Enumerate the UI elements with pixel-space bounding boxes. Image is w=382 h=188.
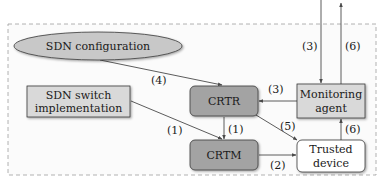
node-monitoring-agent: Monitoring agent — [297, 84, 365, 118]
node-sdn-configuration: SDN configuration — [14, 32, 182, 60]
node-crtm-label: CRTM — [206, 149, 241, 162]
edge-label-crtr-crtm: (1) — [228, 123, 244, 136]
edge-label-external-3: (3) — [302, 40, 318, 53]
node-sdn-configuration-label: SDN configuration — [46, 40, 150, 53]
edge-label-config-crtr: (4) — [151, 74, 167, 87]
node-sdn-switch-line2: implementation — [35, 102, 123, 115]
node-crtm: CRTM — [190, 140, 258, 170]
edge-label-monitoring-crtr: (3) — [268, 83, 284, 96]
node-monitoring-line1: Monitoring — [300, 88, 362, 101]
node-crtr-label: CRTR — [208, 95, 241, 108]
node-crtr: CRTR — [190, 86, 258, 116]
edge-label-crtr-trusted: (5) — [280, 120, 296, 133]
node-sdn-switch-line1: SDN switch — [46, 89, 112, 102]
edge-label-crtm-trusted: (2) — [270, 159, 286, 172]
node-monitoring-line2: agent — [315, 102, 347, 115]
edge-label-trusted-monitoring: (6) — [345, 123, 361, 136]
node-trusted-line2: device — [313, 157, 349, 170]
edge-label-switch-crtm: (1) — [167, 124, 183, 137]
node-sdn-switch-implementation: SDN switch implementation — [27, 86, 130, 117]
architecture-diagram: (3) (6) (4) (3) (1) (1) (5) (6) (2) SDN … — [0, 0, 382, 188]
node-trusted-device: Trusted device — [297, 140, 365, 172]
node-trusted-line1: Trusted — [309, 143, 352, 156]
edge-label-external-6: (6) — [345, 40, 361, 53]
